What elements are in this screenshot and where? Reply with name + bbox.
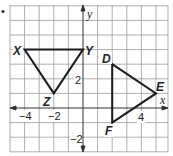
y-tick-2: 2 xyxy=(75,74,81,86)
coordinate-plane: • y x −4 −2 xyxy=(0,0,173,156)
vertex-label-x: X xyxy=(12,44,22,58)
tick-labels: −4 −2 4 2 −2 xyxy=(18,74,145,145)
bullet: • xyxy=(1,5,5,17)
vertex-labels: X Y Z D E F xyxy=(12,43,166,138)
x-tick-4: 4 xyxy=(138,111,144,123)
vertex-label-f: F xyxy=(105,124,113,138)
vertex-label-z: Z xyxy=(42,95,51,109)
y-tick-neg2: −2 xyxy=(70,133,83,145)
y-axis-label: y xyxy=(86,7,93,21)
y-axis-down-arrow-icon xyxy=(81,146,85,152)
grid xyxy=(10,5,168,152)
x-axis-left-arrow-icon xyxy=(10,106,16,110)
vertex-label-e: E xyxy=(156,80,165,94)
x-tick-neg2: −2 xyxy=(48,110,61,122)
vertex-label-d: D xyxy=(102,52,111,66)
x-tick-neg4: −4 xyxy=(19,110,32,122)
x-axis-label: x xyxy=(159,93,166,107)
vertex-label-y: Y xyxy=(85,44,94,58)
